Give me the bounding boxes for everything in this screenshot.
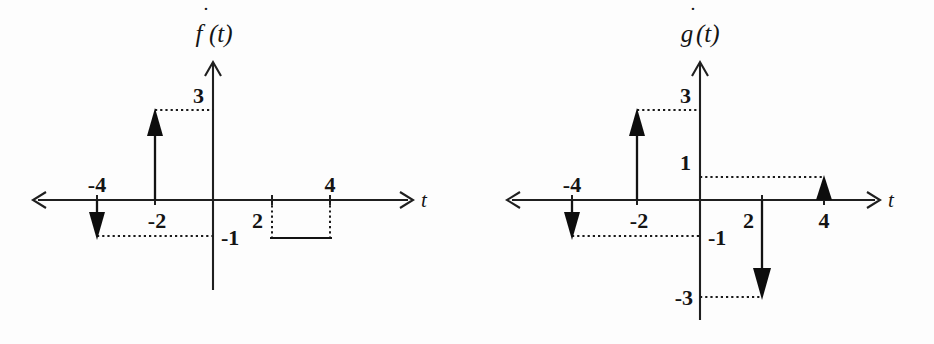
signal-derivative-figure: ˙ f (t) t 3 -1 -4 -2 2 4 [0, 0, 934, 344]
y-tick-label-minus1-g: -1 [708, 225, 726, 250]
x-tick-label-4-g: 4 [819, 208, 830, 233]
x-tick-label-minus4-g: -4 [563, 172, 581, 197]
plot-f-dot: ˙ f (t) t 3 -1 -4 -2 2 4 [0, 0, 467, 344]
rect-pulse-2-to-4-f [270, 200, 332, 238]
y-tick-label-minus3-g: -3 [675, 285, 693, 310]
y-axis-f [205, 62, 221, 290]
y-tick-label-minus1-f: -1 [221, 225, 239, 250]
impulse-up-tminus2-g [629, 108, 645, 200]
y-tick-label-1-g: 1 [680, 150, 691, 175]
y-tick-label-3-g: 3 [680, 83, 691, 108]
impulse-down-tminus4-g [564, 200, 580, 240]
plot-title-g: g [681, 20, 694, 47]
plot-title-g-arg: (t) [696, 20, 720, 48]
x-tick-label-minus4-f: -4 [88, 172, 106, 197]
x-tick-label-minus2-g: -2 [630, 208, 648, 233]
y-axis-g [692, 62, 708, 320]
plot-g-dot: ˙ g (t) t 3 1 -1 -3 -4 -2 2 4 [467, 0, 934, 344]
impulse-down-t2-g [753, 200, 771, 300]
x-tick-label-2-g: 2 [743, 208, 754, 233]
impulse-up-t4-g [816, 175, 832, 200]
plot-title-f-arg: (t) [209, 20, 233, 48]
x-tick-label-2-f: 2 [252, 208, 263, 233]
impulse-down-tminus4-f [89, 200, 105, 240]
x-axis-label-g: t [888, 188, 895, 212]
x-axis-label-f: t [421, 188, 428, 212]
y-tick-label-3-f: 3 [193, 83, 204, 108]
x-tick-label-minus2-f: -2 [148, 208, 166, 233]
x-tick-label-4-f: 4 [325, 172, 336, 197]
impulse-up-tminus2-f [147, 108, 163, 200]
